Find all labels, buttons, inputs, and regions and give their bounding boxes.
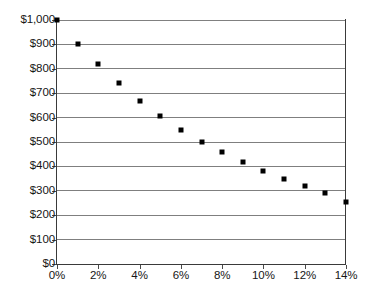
data-point: [178, 127, 183, 132]
y-axis-tick-label: $400: [30, 160, 55, 172]
data-point: [199, 140, 204, 145]
y-axis-tick-label: $1,000: [20, 14, 55, 26]
data-point: [96, 61, 101, 66]
data-point: [137, 98, 142, 103]
scatter-chart: $0$100$200$300$400$500$600$700$800$900$1…: [0, 0, 369, 302]
y-axis-tick-label: $500: [30, 136, 55, 148]
data-point: [240, 159, 245, 164]
y-axis-tick-label: $300: [30, 185, 55, 197]
y-axis-tick-label: $900: [30, 38, 55, 50]
data-point: [344, 199, 349, 204]
y-axis-tick-label: $200: [30, 209, 55, 221]
data-point: [158, 114, 163, 119]
data-point: [261, 169, 266, 174]
x-axis-tick-label: 4%: [131, 270, 147, 282]
x-axis-tick-label: 0%: [49, 270, 65, 282]
y-axis-tick-label: $100: [30, 234, 55, 246]
x-axis-tick-label: 10%: [252, 270, 275, 282]
data-point: [116, 81, 121, 86]
data-point: [220, 149, 225, 154]
y-axis-tick-label: $600: [30, 112, 55, 124]
x-axis-tick-label: 8%: [214, 270, 230, 282]
x-axis-tick-label: 6%: [173, 270, 189, 282]
y-axis-tick-label: $800: [30, 63, 55, 75]
x-axis-tick-label: 12%: [293, 270, 316, 282]
data-point: [282, 176, 287, 181]
y-axis-tick-label: $0: [42, 258, 55, 270]
data-point: [75, 42, 80, 47]
x-axis-tick-label: 14%: [335, 270, 358, 282]
y-axis-tick-label: $700: [30, 87, 55, 99]
x-axis-tick-label: 2%: [90, 270, 106, 282]
data-point: [302, 183, 307, 188]
data-point: [323, 191, 328, 196]
data-point: [55, 18, 60, 23]
